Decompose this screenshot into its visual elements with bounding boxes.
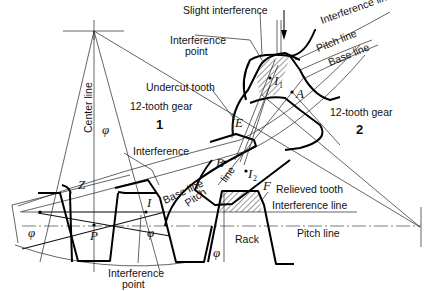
gear1-tooth-left-curve bbox=[62, 185, 72, 262]
relieved-tooth-hatch bbox=[220, 191, 262, 212]
point-A bbox=[290, 90, 293, 93]
label-relieved-tooth: Relieved tooth bbox=[276, 183, 343, 195]
arrow-head bbox=[281, 30, 287, 40]
label-undercut-tooth: Undercut tooth bbox=[146, 81, 215, 93]
label-gear2: 12-tooth gear bbox=[330, 106, 393, 118]
gear1-tooth-mid bbox=[118, 192, 156, 193]
symbol-E: E bbox=[234, 115, 243, 130]
label-gear2-number: 2 bbox=[356, 122, 363, 137]
label-interference-left: Interference bbox=[133, 145, 189, 157]
label-pitch-line-rack: Pitch line bbox=[297, 227, 340, 239]
symbol-A: A bbox=[295, 86, 304, 101]
symbol-phi-rack: φ bbox=[213, 245, 220, 260]
label-interference-point-top2: point bbox=[185, 45, 208, 57]
radial-line-left bbox=[40, 31, 94, 262]
label-rack: Rack bbox=[235, 233, 260, 245]
gear1-center-mark bbox=[63, 20, 124, 40]
interference-hatch bbox=[256, 56, 290, 96]
interference-point-bottom-leader bbox=[138, 215, 141, 263]
label-interference-line-top: Interference line bbox=[319, 0, 394, 26]
point-left bbox=[38, 210, 41, 213]
slight-interference-leader bbox=[260, 12, 262, 55]
label-interference-point-bottom2: point bbox=[122, 278, 145, 290]
interference-left-leader bbox=[124, 153, 159, 185]
symbol-I1-sub: 1 bbox=[279, 81, 283, 90]
point-I bbox=[144, 210, 147, 213]
undercut-curve bbox=[250, 97, 323, 150]
relieved-tooth-leader bbox=[262, 192, 268, 200]
label-gear1-number: 1 bbox=[156, 117, 163, 132]
gear-interference-diagram: Slight interference Interference line Pi… bbox=[0, 0, 431, 291]
symbol-phi-center: φ bbox=[102, 122, 109, 137]
point-I1 bbox=[268, 76, 271, 79]
symbol-I: I bbox=[146, 195, 152, 210]
symbol-phi-left: φ bbox=[28, 225, 35, 240]
symbol-F: F bbox=[262, 178, 272, 193]
point-P bbox=[92, 223, 95, 226]
symbol-Z: Z bbox=[78, 177, 86, 192]
label-gear1: 12-tooth gear bbox=[130, 100, 193, 112]
symbol-P: P bbox=[89, 228, 98, 243]
label-interference-line-rack: Interference line bbox=[272, 199, 347, 211]
symbol-phi-right: φ bbox=[147, 225, 154, 240]
z-ext-left bbox=[12, 205, 18, 243]
symbol-I2-sub: 2 bbox=[253, 174, 257, 183]
label-center-line: Center line bbox=[82, 82, 94, 133]
symbol-B: B bbox=[216, 155, 224, 170]
label-slight-interference: Slight interference bbox=[183, 4, 268, 16]
